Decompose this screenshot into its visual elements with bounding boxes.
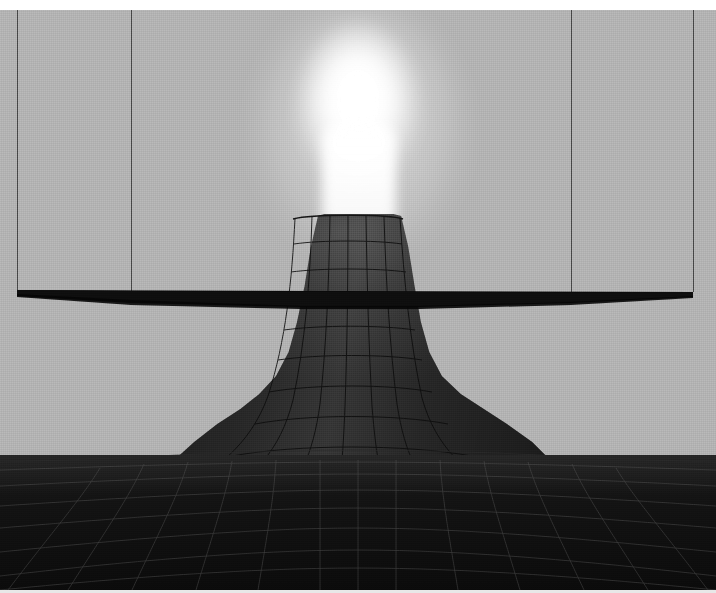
bbox-left-outer-edge [17,10,18,292]
bbox-left-inner-edge [131,10,132,298]
terrain-horizon-shade [0,455,716,495]
top-border-strip [0,0,716,10]
bbox-right-inner-edge [571,10,572,298]
bbox-right-outer-edge [693,10,694,292]
render-viewport: 3D Volcano Plume Visualization [0,0,716,593]
